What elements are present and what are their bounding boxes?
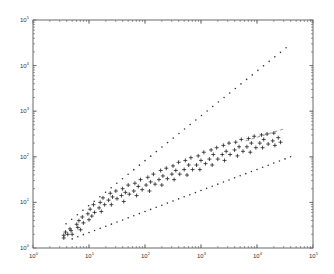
bound-line-dot [150, 155, 152, 157]
bound-line-dot [184, 128, 186, 130]
data-point-cross [149, 180, 153, 184]
y-tick-label: 102 [20, 152, 30, 160]
plot-frame [33, 20, 313, 248]
bound-line-dot [239, 175, 241, 177]
bound-line-dot [150, 209, 152, 211]
bound-line-dot [251, 171, 253, 173]
data-point-cross [185, 173, 189, 177]
bound-line-dot [139, 213, 141, 215]
bound-line-dot [279, 160, 281, 162]
bound-line-dot [284, 158, 286, 160]
bound-line-dot [111, 223, 113, 225]
bound-line-dot [195, 192, 197, 194]
bound-line-dot [201, 115, 203, 117]
data-point-cross [115, 197, 119, 201]
data-point-cross [90, 214, 94, 218]
bound-line-dot [223, 181, 225, 183]
data-point-cross [108, 191, 112, 195]
bound-line-dot [127, 173, 129, 175]
data-point-cross [122, 199, 126, 203]
data-point-cross [203, 162, 207, 166]
bound-line-dot [122, 178, 124, 180]
data-point-cross [209, 148, 213, 152]
x-tick-label: 100 [29, 251, 39, 259]
data-point-cross [273, 143, 277, 147]
data-point-cross [101, 196, 105, 200]
data-point-cross [182, 168, 186, 172]
bound-line-dot [139, 164, 141, 166]
bound-line-dot [116, 221, 118, 223]
x-tick-label: 103 [197, 251, 207, 259]
data-point-cross [146, 175, 150, 179]
plot-axes [33, 20, 313, 248]
bound-line-dot [105, 225, 107, 227]
data-point-cross [147, 189, 151, 193]
data-point-cross [97, 206, 101, 210]
data-point-cross [70, 232, 74, 236]
data-point-cross [202, 150, 206, 154]
bound-line-dot [133, 215, 135, 217]
data-point-cross [177, 160, 181, 164]
data-point-cross [262, 137, 266, 141]
data-point-cross [215, 146, 219, 150]
y-tick-label: 105 [20, 15, 30, 23]
data-point-cross [211, 153, 215, 157]
fit-line [246, 129, 285, 141]
bound-line-dot [88, 232, 90, 234]
data-point-cross [178, 172, 182, 176]
bound-line-dot [83, 234, 85, 236]
bound-line-dot [274, 56, 276, 58]
x-tick-label: 105 [309, 251, 319, 259]
bound-line-dot [206, 188, 208, 190]
bound-line-dot [144, 211, 146, 213]
bound-line-dot [127, 217, 129, 219]
data-point-cross [187, 163, 191, 167]
y-tick-label: 100 [20, 243, 30, 251]
data-point-cross [159, 168, 163, 172]
data-point-cross [140, 188, 144, 192]
bound-line-dot [235, 88, 237, 90]
axis-ticks [33, 20, 313, 248]
bound-line-dot [195, 119, 197, 121]
data-point-cross [199, 158, 203, 162]
data-point-cross [77, 219, 81, 223]
data-point-cross [119, 194, 123, 198]
bound-line-dot [65, 223, 67, 225]
data-point-cross [111, 195, 115, 199]
data-point-cross [103, 203, 107, 207]
bound-line-dot [110, 187, 112, 189]
bound-line-dot [183, 196, 185, 198]
bound-line-dot [240, 83, 242, 85]
data-point-cross [151, 172, 155, 176]
data-point-cross [98, 200, 102, 204]
bound-line-dot [178, 133, 180, 135]
bound-line-dot [263, 65, 265, 67]
data-point-cross [266, 142, 270, 146]
data-point-cross [88, 207, 92, 211]
bound-line-dot [99, 196, 101, 198]
bound-line-dot [268, 61, 270, 63]
data-point-cross [254, 146, 258, 150]
data-point-cross [170, 172, 174, 176]
data-point-cross [271, 139, 275, 143]
data-point-cross [87, 218, 91, 222]
bound-line-dot [71, 238, 73, 240]
data-point-cross [196, 154, 200, 158]
data-point-cross [139, 178, 143, 182]
bound-line-dot [94, 230, 96, 232]
data-point-cross [189, 156, 193, 160]
bound-line-dot [290, 156, 292, 158]
bound-line-dot [161, 204, 163, 206]
chart: 100101102103104105100101102103104105 [0, 0, 334, 274]
bound-line-dot [251, 74, 253, 76]
bound-line-dot [217, 183, 219, 185]
bound-line-dot [71, 219, 73, 221]
data-point-cross [144, 183, 148, 187]
data-point-cross [265, 132, 269, 136]
bound-line-dot [245, 173, 247, 175]
data-point-cross [245, 145, 249, 149]
bound-line-dot [167, 202, 169, 204]
bound-line-dot [200, 190, 202, 192]
bound-line-dot [82, 209, 84, 211]
data-point-cross [258, 141, 262, 145]
